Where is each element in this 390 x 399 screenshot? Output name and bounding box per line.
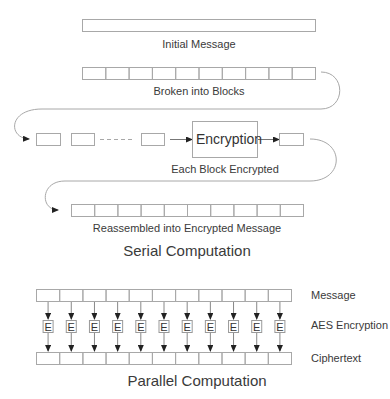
block-cell [95, 205, 118, 217]
parallel-computation-title: Parallel Computation [127, 372, 266, 389]
block-cell [234, 205, 257, 217]
block-cell [152, 68, 175, 80]
serial-computation-title: Serial Computation [123, 242, 251, 259]
block-cell [246, 68, 269, 80]
reassembled-row [72, 205, 304, 217]
block-cell [106, 68, 129, 80]
block-cell [141, 205, 164, 217]
block-cell [118, 205, 141, 217]
message-row-label: Message [311, 289, 356, 301]
ciphertext-row-label: Ciphertext [311, 352, 361, 364]
block-cell [245, 290, 268, 302]
e-box-label: E [184, 321, 191, 333]
parallel-message-row [37, 290, 292, 302]
each-block-encrypted-label: Each Block Encrypted [171, 163, 279, 175]
block-cell [106, 353, 129, 365]
block-cell [152, 290, 175, 302]
block-cell [269, 68, 292, 80]
block-cell [129, 290, 152, 302]
block-cell [280, 205, 303, 217]
e-box-label: E [230, 321, 237, 333]
block-cell [268, 290, 291, 302]
diagram-canvas: EEEEEEEEEEE [0, 0, 390, 399]
serial-block-2 [72, 134, 95, 146]
initial-message-bar [83, 20, 316, 32]
blocks-row [83, 68, 316, 80]
block-cell [292, 68, 315, 80]
block-cell [37, 290, 60, 302]
block-cell [60, 290, 83, 302]
block-cell [129, 353, 152, 365]
block-cell [72, 205, 95, 217]
block-cell [164, 205, 187, 217]
block-cell [199, 68, 222, 80]
block-cell [222, 290, 245, 302]
block-cell [152, 353, 175, 365]
e-box-label: E [137, 321, 144, 333]
encryption-box-label: Encryption [196, 131, 262, 147]
aes-encryption-label: AES Encryption [311, 319, 388, 331]
e-box-label: E [91, 321, 98, 333]
block-cell [176, 353, 199, 365]
e-box-label: E [114, 321, 121, 333]
block-cell [222, 68, 245, 80]
block-cell [129, 68, 152, 80]
block-cell [257, 205, 280, 217]
serial-block-3 [142, 134, 165, 146]
block-cell [245, 353, 268, 365]
serial-block-1 [37, 134, 61, 146]
block-cell [268, 353, 291, 365]
block-cell [176, 290, 199, 302]
e-box-label: E [276, 321, 283, 333]
block-cell [188, 205, 211, 217]
block-cell [199, 353, 222, 365]
block-cell [176, 68, 199, 80]
e-box-label: E [253, 321, 260, 333]
e-box-label: E [160, 321, 167, 333]
parallel-encryption-units: EEEEEEEEEEE [43, 302, 285, 351]
encrypted-block [280, 134, 304, 146]
reassembled-label: Reassembled into Encrypted Message [93, 222, 281, 234]
initial-message-label: Initial Message [162, 38, 235, 50]
block-cell [106, 290, 129, 302]
e-box-label: E [207, 321, 214, 333]
block-cell [37, 353, 60, 365]
parallel-ciphertext-row [37, 353, 292, 365]
broken-into-blocks-label: Broken into Blocks [153, 85, 244, 97]
e-box-label: E [44, 321, 51, 333]
block-cell [60, 353, 83, 365]
block-cell [83, 353, 106, 365]
block-cell [83, 68, 106, 80]
flow-curve-right-1 [15, 72, 340, 139]
block-cell [199, 290, 222, 302]
block-cell [211, 205, 234, 217]
block-cell [83, 290, 106, 302]
e-box-label: E [68, 321, 75, 333]
block-cell [222, 353, 245, 365]
